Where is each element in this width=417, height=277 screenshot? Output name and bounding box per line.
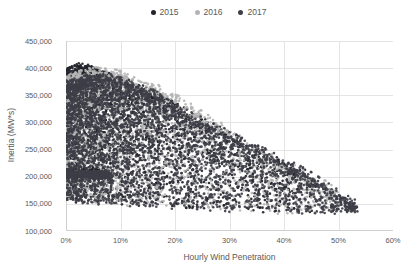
y-tick-label: 150,000 — [25, 199, 52, 208]
legend-label-2017: 2017 — [247, 7, 266, 17]
y-tick-label: 200,000 — [25, 172, 52, 181]
x-tick-label: 30% — [210, 236, 250, 245]
x-tick-label: 10% — [101, 236, 141, 245]
legend-item-2016: 2016 — [195, 7, 223, 17]
legend-item-2015: 2015 — [151, 7, 179, 17]
x-tick-label: 20% — [155, 236, 195, 245]
legend-label-2015: 2015 — [160, 7, 179, 17]
legend-item-2017: 2017 — [238, 7, 266, 17]
y-tick-label: 100,000 — [25, 227, 52, 236]
legend-label-2016: 2016 — [204, 7, 223, 17]
x-tick-label: 50% — [319, 236, 359, 245]
scatter-canvas — [66, 41, 393, 231]
chart-legend: 2015 2016 2017 — [0, 7, 417, 17]
x-axis-title: Hourly Wind Penetration — [66, 252, 393, 262]
y-tick-label: 300,000 — [25, 118, 52, 127]
plot-area — [66, 41, 393, 231]
x-tick-label: 40% — [264, 236, 304, 245]
legend-marker-2017 — [238, 10, 243, 15]
y-tick-label: 350,000 — [25, 91, 52, 100]
x-tick-label: 60% — [373, 236, 413, 245]
x-tick-label: 0% — [46, 236, 86, 245]
legend-marker-2015 — [151, 10, 156, 15]
y-axis-tick-labels: 450,000400,000350,000300,000250,000200,0… — [0, 41, 58, 231]
legend-marker-2016 — [195, 10, 200, 15]
y-tick-label: 250,000 — [25, 145, 52, 154]
y-tick-label: 400,000 — [25, 64, 52, 73]
x-axis-tick-labels: 0%10%20%30%40%50%60% — [66, 236, 393, 248]
y-tick-label: 450,000 — [25, 37, 52, 46]
inertia-scatter-chart: 2015 2016 2017 Inertia (MW*s) 450,000400… — [0, 0, 417, 277]
